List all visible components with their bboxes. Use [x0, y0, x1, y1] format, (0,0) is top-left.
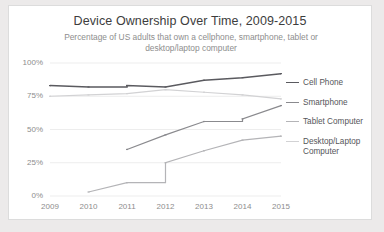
- legend-item[interactable]: Smartphone: [286, 98, 372, 108]
- legend-swatch-icon: [286, 102, 299, 103]
- data-point: [242, 140, 244, 141]
- legend-item-label: Cell Phone: [303, 78, 343, 87]
- data-point: [165, 86, 167, 87]
- y-axis-tick-label: 0%: [9, 191, 43, 200]
- data-point: [280, 73, 282, 74]
- data-point: [88, 86, 90, 87]
- x-axis-tick-label: 2012: [146, 202, 186, 211]
- legend-swatch-icon: [286, 82, 299, 83]
- data-point: [203, 92, 205, 93]
- data-point: [49, 96, 51, 97]
- y-axis-tick-label: 25%: [9, 158, 43, 167]
- y-axis-tick-label: 100%: [9, 58, 43, 67]
- data-point: [126, 85, 128, 86]
- data-point: [203, 150, 205, 151]
- data-point: [165, 134, 167, 135]
- x-axis-tick-label: 2011: [107, 202, 147, 211]
- x-axis-tick-label: 2014: [223, 202, 263, 211]
- data-point: [49, 85, 51, 86]
- y-axis-tick-label: 75%: [9, 91, 43, 100]
- data-point: [242, 94, 244, 95]
- legend-item[interactable]: Desktop/Laptop Computer: [286, 137, 372, 157]
- data-point: [280, 105, 282, 106]
- data-point: [242, 77, 244, 78]
- x-axis-tick-label: 2010: [69, 202, 109, 211]
- series-line: [50, 90, 281, 99]
- data-point: [280, 98, 282, 99]
- legend-item[interactable]: Cell Phone: [286, 78, 372, 88]
- data-point: [280, 136, 282, 137]
- legend-item-label: Desktop/Laptop Computer: [303, 137, 360, 156]
- legend-item-label: Tablet Computer: [303, 117, 363, 126]
- data-point: [242, 118, 244, 119]
- legend-item[interactable]: Tablet Computer: [286, 117, 372, 127]
- data-point: [126, 149, 128, 150]
- data-point: [126, 182, 128, 183]
- chart-legend: Cell PhoneSmartphoneTablet ComputerDeskt…: [286, 78, 372, 166]
- data-point: [203, 80, 205, 81]
- data-point: [88, 191, 90, 192]
- x-axis-tick-label: 2009: [30, 202, 70, 211]
- x-axis-tick-label: 2013: [184, 202, 224, 211]
- legend-swatch-icon: [286, 141, 299, 142]
- legend-item-label: Smartphone: [303, 98, 348, 107]
- series-line: [127, 106, 281, 150]
- x-axis-tick-label: 2015: [261, 202, 301, 211]
- page-root: Device Ownership Over Time, 2009-2015 Pe…: [0, 0, 384, 232]
- data-point: [165, 162, 167, 163]
- data-point: [165, 89, 167, 90]
- data-point: [126, 93, 128, 94]
- series-line: [50, 74, 281, 87]
- series-line: [89, 136, 282, 192]
- chart-card: Device Ownership Over Time, 2009-2015 Pe…: [8, 5, 372, 220]
- data-point: [88, 94, 90, 95]
- y-axis-tick-label: 50%: [9, 125, 43, 134]
- data-point: [203, 121, 205, 122]
- legend-swatch-icon: [286, 121, 299, 122]
